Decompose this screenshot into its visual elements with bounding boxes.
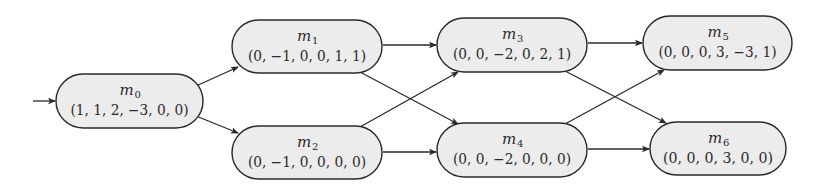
node-m6: m6(0, 0, 0, 3, 0, 0) <box>650 122 786 175</box>
node-label-subscript: 6 <box>723 137 729 148</box>
node-label-subscript: 0 <box>135 89 141 100</box>
node-vector: (0, −1, 0, 0, 1, 1) <box>248 48 366 64</box>
node-label: m <box>707 23 721 41</box>
node-m1: m1(0, −1, 0, 0, 1, 1) <box>232 20 382 73</box>
node-vector: (0, 0, −2, 0, 2, 1) <box>453 46 571 62</box>
node-label-subscript: 4 <box>517 138 523 149</box>
node-vector: (0, −1, 0, 0, 0, 0) <box>248 154 366 170</box>
node-vector: (0, 0, 0, 3, −3, 1) <box>659 44 777 60</box>
nodes-layer: m0(1, 1, 2, −3, 0, 0)m1(0, −1, 0, 0, 1, … <box>56 16 792 179</box>
node-label-subscript: 3 <box>517 33 523 44</box>
node-label: m <box>119 81 133 99</box>
node-label-subscript: 2 <box>312 141 318 152</box>
node-label-subscript: 5 <box>723 31 729 42</box>
node-vector: (0, 0, −2, 0, 0, 0) <box>453 151 571 167</box>
node-label: m <box>297 133 311 151</box>
node-label: m <box>708 129 722 147</box>
node-m2: m2(0, −1, 0, 0, 0, 0) <box>232 126 382 179</box>
node-label-subscript: 1 <box>312 35 318 46</box>
node-label: m <box>502 130 516 148</box>
node-vector: (0, 0, 0, 3, 0, 0) <box>663 150 773 166</box>
node-label: m <box>502 25 516 43</box>
node-vector: (1, 1, 2, −3, 0, 0) <box>71 102 189 118</box>
state-graph-diagram: m0(1, 1, 2, −3, 0, 0)m1(0, −1, 0, 0, 1, … <box>0 0 819 193</box>
node-m4: m4(0, 0, −2, 0, 0, 0) <box>437 123 587 177</box>
node-label: m <box>297 27 311 45</box>
edge-m0-to-m1 <box>196 67 238 86</box>
edge-m0-to-m2 <box>196 116 238 133</box>
node-m0: m0(1, 1, 2, −3, 0, 0) <box>56 74 203 128</box>
node-m3: m3(0, 0, −2, 0, 2, 1) <box>437 18 587 72</box>
node-m5: m5(0, 0, 0, 3, −3, 1) <box>643 16 792 70</box>
